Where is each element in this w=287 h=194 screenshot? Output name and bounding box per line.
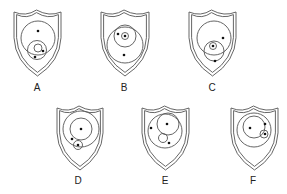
shield-outer-outline [101, 10, 149, 76]
dot [123, 54, 126, 57]
option-label: E [162, 175, 169, 186]
dot [124, 35, 127, 38]
dot [168, 142, 171, 145]
circle [34, 44, 42, 52]
circle [204, 41, 224, 61]
option-label: D [74, 175, 81, 186]
circle [21, 21, 55, 55]
dot [71, 138, 74, 141]
dot [77, 144, 80, 147]
shield-outer-outline [189, 10, 236, 76]
dot [117, 33, 120, 36]
shield-d: D [57, 106, 103, 186]
dot [222, 37, 225, 40]
dot [212, 45, 215, 48]
option-label: F [250, 175, 256, 186]
dot [42, 50, 45, 53]
dot [166, 123, 169, 126]
shield-figure: ABCDEF [0, 0, 287, 194]
option-label: B [121, 82, 128, 93]
option-label: A [34, 82, 41, 93]
dot [34, 56, 37, 59]
dot [214, 60, 217, 63]
circle [159, 134, 168, 143]
dot [264, 133, 267, 136]
dot [80, 128, 83, 131]
shield-b: B [101, 10, 149, 93]
shield-c: C [189, 10, 236, 93]
dot [150, 127, 153, 130]
shield-a: A [14, 10, 61, 93]
circle [197, 21, 231, 55]
circle [243, 116, 265, 138]
dot [249, 127, 252, 130]
dot [37, 30, 40, 33]
shield-e: E [142, 106, 189, 186]
shield-f: F [231, 106, 278, 186]
option-label: C [208, 82, 215, 93]
dot [264, 123, 267, 126]
